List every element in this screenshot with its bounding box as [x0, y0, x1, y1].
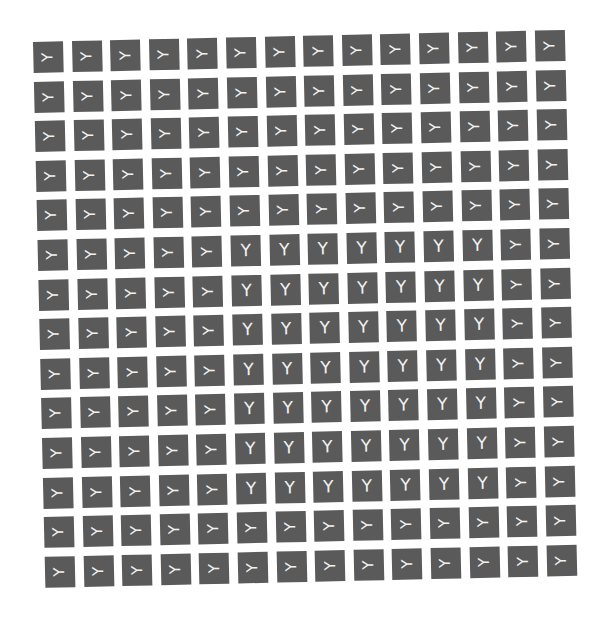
y-sideways-icon: Y: [81, 131, 96, 141]
y-sideways-icon: Y: [43, 171, 58, 181]
tile-sideways-y: Y: [237, 512, 268, 544]
tile-sideways-y: Y: [469, 546, 500, 578]
tile-sideways-y: Y: [544, 426, 575, 458]
tile-sideways-y: Y: [154, 276, 185, 308]
y-sideways-icon: Y: [162, 287, 177, 297]
tile-upright-y: Y: [269, 234, 300, 266]
tile-sideways-y: Y: [496, 31, 527, 63]
tile-upright-y: Y: [308, 273, 339, 305]
tile-upright-y: Y: [347, 272, 378, 304]
tile-sideways-y: Y: [459, 111, 490, 143]
tile-upright-y: Y: [350, 391, 381, 423]
tile-sideways-y: Y: [158, 435, 189, 467]
tile-sideways-y: Y: [507, 506, 538, 538]
y-sideways-icon: Y: [508, 240, 523, 250]
tile-sideways-y: Y: [545, 505, 576, 537]
y-sideways-icon: Y: [353, 204, 368, 214]
tile-sideways-y: Y: [229, 156, 260, 188]
y-upright-icon: Y: [280, 281, 291, 298]
y-upright-icon: Y: [436, 356, 447, 373]
tile-sideways-y: Y: [121, 515, 152, 547]
tile-upright-y: Y: [349, 351, 380, 383]
y-sideways-icon: Y: [86, 329, 101, 339]
y-sideways-icon: Y: [390, 124, 405, 134]
tile-sideways-y: Y: [72, 40, 103, 72]
tile-sideways-y: Y: [419, 33, 450, 65]
y-sideways-icon: Y: [119, 90, 134, 100]
tile-sideways-y: Y: [73, 120, 104, 152]
y-sideways-icon: Y: [48, 369, 63, 379]
y-sideways-icon: Y: [274, 126, 289, 136]
tile-upright-y: Y: [273, 392, 304, 424]
tile-sideways-y: Y: [188, 77, 219, 109]
tile-sideways-y: Y: [189, 117, 220, 149]
y-sideways-icon: Y: [43, 132, 58, 142]
tile-sideways-y: Y: [152, 197, 183, 229]
y-upright-icon: Y: [244, 400, 255, 417]
y-upright-icon: Y: [433, 238, 444, 255]
tile-sideways-y: Y: [392, 548, 423, 580]
tile-sideways-y: Y: [381, 73, 412, 105]
tile-sideways-y: Y: [116, 317, 147, 349]
y-sideways-icon: Y: [468, 162, 483, 172]
tile-sideways-y: Y: [38, 279, 69, 311]
y-upright-icon: Y: [283, 439, 294, 456]
y-sideways-icon: Y: [118, 51, 133, 61]
y-upright-icon: Y: [323, 478, 334, 495]
y-upright-icon: Y: [475, 395, 486, 412]
tile-sideways-y: Y: [343, 113, 374, 145]
y-sideways-icon: Y: [160, 208, 175, 218]
y-upright-icon: Y: [360, 398, 371, 415]
y-sideways-icon: Y: [200, 247, 215, 257]
y-upright-icon: Y: [400, 476, 411, 493]
y-sideways-icon: Y: [91, 566, 106, 576]
tile-upright-y: Y: [272, 353, 303, 385]
tile-sideways-y: Y: [226, 37, 257, 69]
tile-sideways-y: Y: [353, 549, 384, 581]
y-upright-icon: Y: [399, 436, 410, 453]
y-upright-icon: Y: [245, 440, 256, 457]
y-sideways-icon: Y: [245, 563, 260, 573]
tile-upright-y: Y: [346, 232, 377, 264]
y-upright-icon: Y: [283, 400, 294, 417]
tile-sideways-y: Y: [535, 70, 566, 102]
y-upright-icon: Y: [475, 356, 486, 373]
y-upright-icon: Y: [362, 477, 373, 494]
y-sideways-icon: Y: [168, 564, 183, 574]
tile-upright-y: Y: [308, 233, 339, 265]
tile-upright-y: Y: [429, 468, 460, 500]
y-sideways-icon: Y: [236, 167, 251, 177]
y-upright-icon: Y: [438, 436, 449, 453]
tile-sideways-y: Y: [117, 356, 148, 388]
tile-sideways-y: Y: [75, 199, 106, 231]
y-sideways-icon: Y: [41, 52, 56, 62]
tile-sideways-y: Y: [391, 508, 422, 540]
tile-sideways-y: Y: [544, 465, 575, 497]
tile-sideways-y: Y: [498, 110, 529, 142]
tile-upright-y: Y: [462, 230, 493, 262]
tile-sideways-y: Y: [422, 191, 453, 223]
tile-upright-y: Y: [352, 470, 383, 502]
tile-upright-y: Y: [230, 235, 261, 267]
tile-sideways-y: Y: [151, 118, 182, 150]
tile-sideways-y: Y: [344, 153, 375, 185]
y-upright-icon: Y: [356, 239, 367, 256]
y-sideways-icon: Y: [507, 200, 522, 210]
y-sideways-icon: Y: [201, 326, 216, 336]
y-sideways-icon: Y: [552, 476, 567, 486]
y-sideways-icon: Y: [164, 366, 179, 376]
tile-sideways-y: Y: [468, 507, 499, 539]
y-sideways-icon: Y: [87, 368, 102, 378]
tile-upright-y: Y: [426, 349, 457, 381]
y-upright-icon: Y: [321, 399, 332, 416]
y-upright-icon: Y: [434, 277, 445, 294]
y-upright-icon: Y: [318, 240, 329, 257]
y-sideways-icon: Y: [85, 289, 100, 299]
y-sideways-icon: Y: [80, 91, 95, 101]
tile-sideways-y: Y: [37, 200, 68, 232]
tile-sideways-y: Y: [151, 157, 182, 189]
y-sideways-icon: Y: [122, 249, 137, 259]
y-sideways-icon: Y: [465, 43, 480, 53]
y-sideways-icon: Y: [83, 210, 98, 220]
y-sideways-icon: Y: [88, 447, 103, 457]
